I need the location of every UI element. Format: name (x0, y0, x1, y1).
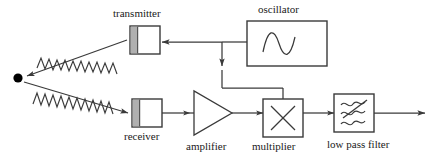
transmitter-block (130, 26, 160, 54)
label-oscillator: oscillator (258, 4, 299, 15)
label-receiver: receiver (124, 131, 159, 142)
target-dot (13, 73, 22, 82)
label-low-pass-filter: low pass filter (327, 139, 389, 150)
oscillator-block (247, 21, 327, 66)
label-transmitter: transmitter (113, 8, 161, 19)
transmitter-aperture (131, 27, 138, 54)
receiver-block (132, 99, 162, 127)
radar-block-diagram: transmitter oscillator receiver amplifie… (0, 0, 436, 161)
receiver-aperture (133, 100, 140, 127)
transmitted-beam-zigzag (37, 58, 117, 74)
amplifier-block (190, 91, 232, 135)
reflected-beam-arrow (24, 82, 128, 113)
low-pass-filter-block (334, 94, 374, 132)
label-multiplier: multiplier (252, 141, 295, 152)
label-amplifier: amplifier (186, 141, 226, 152)
multiplier-block (263, 99, 303, 137)
diagram-canvas (0, 0, 436, 161)
